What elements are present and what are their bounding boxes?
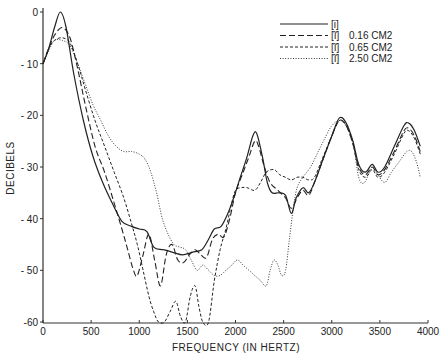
x-tick-label: 3500 (369, 326, 392, 337)
x-tick-label: 500 (83, 326, 100, 337)
spectrum-chart: 0- 10- 20- 30- 40- 50-60 050010001500200… (0, 0, 446, 361)
y-axis-title: DECIBELS (5, 141, 16, 194)
series-line-1 (43, 27, 420, 285)
y-tick-label: - 30 (21, 162, 39, 173)
y-tick-label: - 10 (21, 59, 39, 70)
legend-label: 0.65 CM2 (349, 42, 393, 53)
legend-label: 2.50 CM2 (349, 53, 393, 64)
x-tick-label: 3000 (321, 326, 344, 337)
legend-symbol: [i] (331, 19, 339, 30)
y-tick-label: - 50 (21, 265, 39, 276)
legend-label: 0.16 CM2 (349, 30, 393, 41)
x-axis-title: FREQUENCY (IN HERTZ) (172, 342, 300, 353)
y-tick-label: 0 (32, 7, 38, 18)
series-line-2 (43, 38, 420, 326)
y-axis-ticks: 0- 10- 20- 30- 40- 50-60 (21, 7, 43, 328)
y-tick-label: - 20 (21, 110, 39, 121)
x-tick-label: 1500 (176, 326, 199, 337)
legend-symbol: [ĩ] (331, 42, 340, 53)
legend: [i][ĩ]0.16 CM2[ĩ]0.65 CM2[ĩ]2.50 CM2 (280, 19, 393, 65)
legend-symbol: [ĩ] (331, 53, 340, 64)
y-tick-label: -60 (24, 317, 39, 328)
x-tick-label: 2000 (224, 326, 247, 337)
legend-symbol: [ĩ] (331, 30, 340, 41)
x-tick-label: 2500 (273, 326, 296, 337)
y-tick-label: - 40 (21, 214, 39, 225)
series-line-3 (43, 39, 420, 286)
x-tick-label: 4000 (417, 326, 440, 337)
x-tick-label: 1000 (128, 326, 151, 337)
x-tick-label: 0 (40, 326, 46, 337)
